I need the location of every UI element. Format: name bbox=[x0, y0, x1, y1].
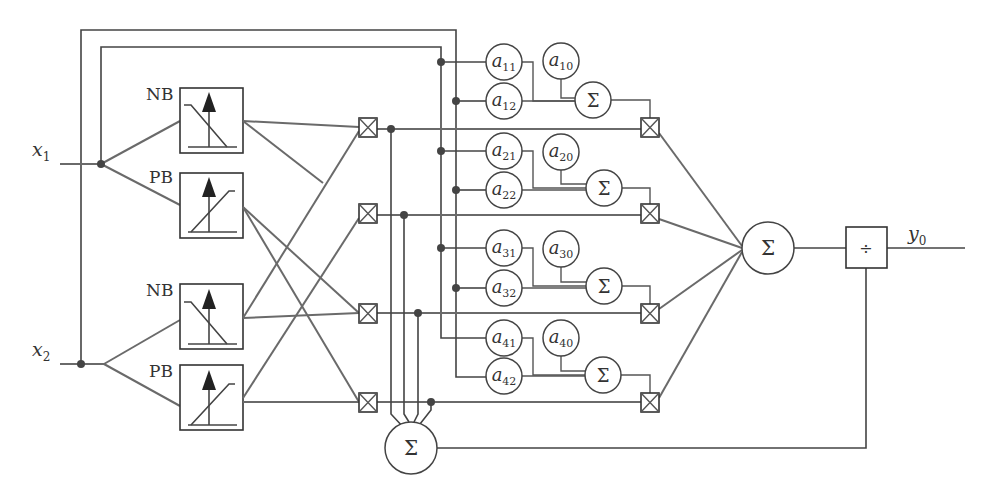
coef-a11: a11 bbox=[492, 50, 517, 75]
coef-a22: a22 bbox=[492, 178, 517, 203]
coef-a41: a41 bbox=[492, 326, 517, 351]
mf-label-x2-pb: PB bbox=[149, 361, 173, 381]
coef-a40: a40 bbox=[549, 326, 574, 351]
coef-a10: a10 bbox=[549, 49, 574, 74]
rule-3-sum-symbol: Σ bbox=[598, 276, 611, 297]
mf-label-x1-nb: NB bbox=[146, 84, 173, 104]
input-label-x1: x1 bbox=[32, 138, 50, 164]
coef-a21: a21 bbox=[492, 139, 517, 164]
coef-a30: a30 bbox=[549, 237, 574, 262]
rule-2-sum-symbol: Σ bbox=[598, 178, 611, 199]
mf-box-x2-pb bbox=[180, 365, 243, 430]
coef-a31: a31 bbox=[492, 236, 517, 261]
rule-4-sum-symbol: Σ bbox=[597, 365, 610, 386]
mf-label-x2-nb: NB bbox=[146, 280, 173, 300]
divide-symbol: ÷ bbox=[859, 239, 872, 258]
mf-label-x1-pb: PB bbox=[149, 167, 173, 187]
rule-4-wiring bbox=[522, 338, 650, 393]
coef-a42: a42 bbox=[492, 364, 517, 389]
mf-box-x1-nb bbox=[180, 88, 243, 153]
mf-box-x2-nb bbox=[180, 284, 243, 349]
coef-a20: a20 bbox=[549, 140, 574, 165]
output-sum-symbol: Σ bbox=[761, 236, 775, 260]
rule-1-sum-symbol: Σ bbox=[587, 90, 600, 111]
coef-a12: a12 bbox=[492, 89, 517, 114]
output-label-y0: y0 bbox=[908, 222, 926, 248]
rule-3-wiring bbox=[522, 248, 650, 304]
anfis-diagram: x1 x2 y0 NB PB NB PB a11 a12 a10 a21 a22… bbox=[0, 0, 997, 492]
x2-bus-wire bbox=[81, 30, 486, 377]
coef-a32: a32 bbox=[492, 276, 517, 301]
rule-2-wiring bbox=[522, 151, 650, 204]
input-label-x2: x2 bbox=[32, 338, 50, 364]
mf-box-x1-pb bbox=[180, 173, 243, 238]
normalizer-sum-symbol: Σ bbox=[404, 436, 418, 460]
